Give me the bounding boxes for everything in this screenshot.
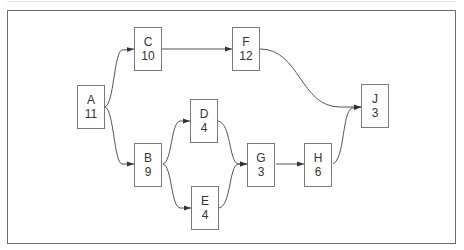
edge-f-j xyxy=(260,49,361,107)
node-e-duration: 4 xyxy=(202,208,209,222)
edge-d-g xyxy=(218,121,247,164)
node-g-duration: 3 xyxy=(258,165,265,179)
node-e-label: E xyxy=(201,194,209,208)
node-h: H 6 xyxy=(304,143,332,187)
edge-a-b xyxy=(105,107,134,164)
node-h-label: H xyxy=(314,151,323,165)
node-d: D 4 xyxy=(190,99,218,143)
node-b-label: B xyxy=(144,151,152,165)
node-a-label: A xyxy=(87,93,95,107)
node-d-duration: 4 xyxy=(201,121,208,135)
node-f-duration: 12 xyxy=(239,49,252,63)
node-g-label: G xyxy=(256,151,265,165)
node-b: B 9 xyxy=(134,143,162,187)
node-c-label: C xyxy=(144,35,153,49)
node-h-duration: 6 xyxy=(315,165,322,179)
edge-h-j xyxy=(333,107,361,164)
node-j-label: J xyxy=(372,92,378,106)
node-a-duration: 11 xyxy=(85,107,97,121)
node-c: C 10 xyxy=(134,27,162,71)
node-f-label: F xyxy=(242,35,249,49)
node-f: F 12 xyxy=(232,27,260,71)
node-j: J 3 xyxy=(361,84,389,128)
node-g: G 3 xyxy=(247,143,275,187)
edge-a-c xyxy=(105,49,134,107)
node-j-duration: 3 xyxy=(372,106,379,120)
node-a: A 11 xyxy=(77,85,105,129)
edge-b-e xyxy=(163,164,191,208)
node-e: E 4 xyxy=(191,186,219,230)
node-d-label: D xyxy=(200,107,209,121)
edge-e-g xyxy=(219,164,247,208)
edge-b-d xyxy=(163,121,190,164)
node-c-duration: 10 xyxy=(141,49,154,63)
node-b-duration: 9 xyxy=(145,165,152,179)
